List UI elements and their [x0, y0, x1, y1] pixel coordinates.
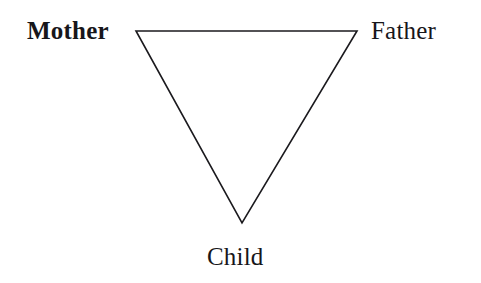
- node-label-mother: Mother: [27, 18, 109, 43]
- node-label-child: Child: [207, 244, 264, 269]
- triangle-outline: [136, 31, 357, 223]
- diagram-canvas: Mother Father Child: [0, 0, 481, 283]
- node-label-father: Father: [371, 18, 436, 43]
